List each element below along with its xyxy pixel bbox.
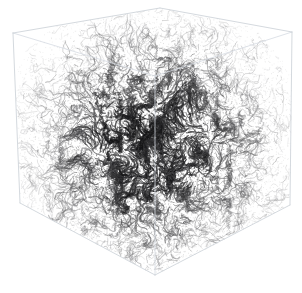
visualization-viewport — [0, 0, 302, 293]
cube-edge-bottom-left-front — [20, 203, 155, 275]
cube-edges-interior — [13, 32, 292, 275]
cube-edge-top-right-front — [160, 8, 292, 32]
cube-edge-interior-back-left — [13, 33, 155, 76]
cube-edge-top-left-front — [13, 8, 160, 33]
cube-edge-interior-back-right — [155, 32, 292, 76]
bounding-box-wireframe — [0, 0, 302, 293]
cube-edge-front-left-vertical — [13, 33, 20, 203]
cube-edges-outer — [13, 8, 292, 275]
cube-edge-bottom-right-front — [155, 205, 290, 275]
cube-edge-front-right-vertical — [290, 32, 292, 205]
